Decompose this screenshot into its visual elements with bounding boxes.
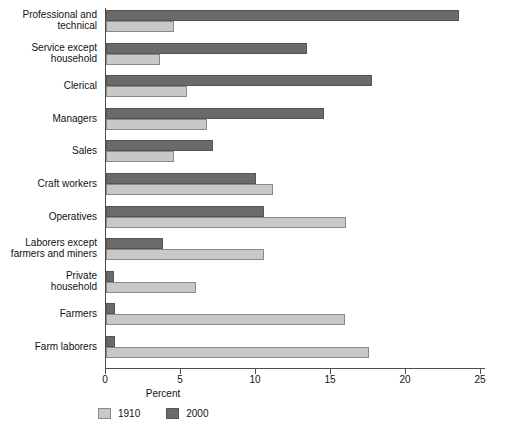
bar-1910: [106, 86, 187, 97]
x-axis-title: Percent: [0, 388, 506, 399]
bar-1910: [106, 54, 160, 65]
bar-1910: [106, 151, 174, 162]
category-label: Sales: [0, 145, 97, 156]
bar-1910: [106, 347, 369, 358]
bar-1910: [106, 184, 273, 195]
bar-2000: [106, 336, 115, 347]
category-label: Managers: [0, 113, 97, 124]
bar-2000: [106, 75, 372, 86]
legend-entry-1910: 1910: [98, 408, 140, 419]
bar-2000: [106, 271, 114, 282]
category-label: Clerical: [0, 80, 97, 91]
bar-2000: [106, 108, 324, 119]
x-tick-label: 15: [324, 374, 335, 385]
category-label: Farm laborers: [0, 341, 97, 352]
x-tick-label: 5: [177, 374, 183, 385]
x-tick-label: 25: [474, 374, 485, 385]
bar-1910: [106, 119, 207, 130]
light-gray-swatch-icon: [98, 408, 111, 419]
category-label: Laborers except farmers and miners: [0, 237, 97, 259]
bar-2000: [106, 206, 264, 217]
x-tick-label: 0: [102, 374, 108, 385]
bar-1910: [106, 249, 264, 260]
legend-entry-2000: 2000: [166, 408, 208, 419]
bar-2000: [106, 10, 459, 21]
chart-legend: 1910 2000: [98, 408, 209, 419]
bar-2000: [106, 43, 307, 54]
legend-label-2000: 2000: [186, 408, 208, 419]
x-tick-label: 20: [399, 374, 410, 385]
occupation-percent-bar-chart: 0510152025 Professional and technicalSer…: [0, 0, 506, 431]
bar-2000: [106, 173, 256, 184]
category-label: Private household: [0, 270, 97, 292]
category-label: Craft workers: [0, 178, 97, 189]
dark-gray-swatch-icon: [166, 408, 179, 419]
bar-2000: [106, 238, 163, 249]
bar-1910: [106, 314, 345, 325]
category-label: Operatives: [0, 211, 97, 222]
x-axis-line: [105, 368, 485, 369]
category-label: Farmers: [0, 308, 97, 319]
bar-1910: [106, 282, 196, 293]
category-label: Professional and technical: [0, 9, 97, 31]
x-tick-label: 10: [249, 374, 260, 385]
bar-2000: [106, 140, 213, 151]
legend-label-1910: 1910: [118, 408, 140, 419]
bar-2000: [106, 303, 115, 314]
bar-1910: [106, 21, 174, 32]
bar-1910: [106, 217, 346, 228]
category-label: Service except household: [0, 42, 97, 64]
